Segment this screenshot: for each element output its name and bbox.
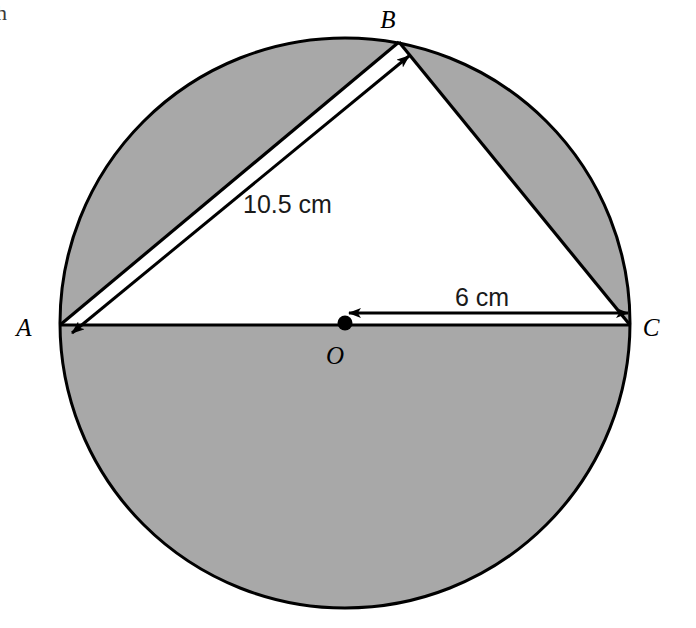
point-label-a: A [14, 314, 32, 341]
point-label-c: C [643, 314, 660, 341]
dimension-label-ab: 10.5 cm [243, 190, 332, 218]
point-label-o: O [326, 342, 344, 369]
point-label-b: B [380, 6, 395, 33]
geometry-figure: h [0, 0, 696, 628]
diagram-canvas: A B C O 10.5 cm 6 cm [0, 0, 696, 628]
center-point-dot [338, 316, 353, 331]
dimension-label-oc: 6 cm [455, 283, 509, 311]
